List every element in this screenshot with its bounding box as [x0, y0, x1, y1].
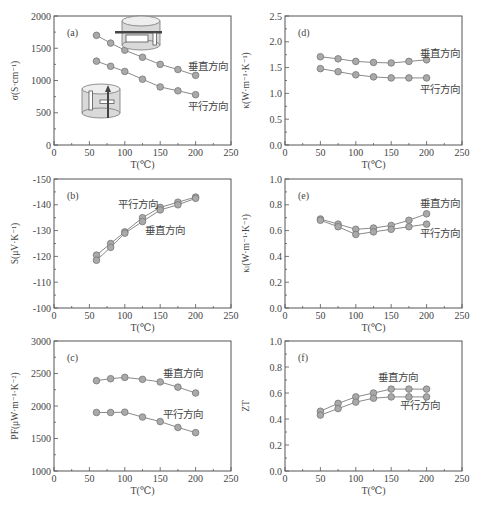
data-point: [107, 244, 114, 251]
data-point: [370, 229, 377, 236]
y-tick-label: 500: [36, 107, 51, 118]
data-point: [93, 377, 100, 384]
x-tick-label: 50: [315, 147, 325, 158]
panel-label: (f): [298, 352, 308, 364]
x-tick-label: 150: [153, 147, 168, 158]
panel-f-zt-chart: 050100150200250T(℃)0.00.20.40.60.81.0ZT(…: [241, 336, 470, 498]
data-point: [423, 386, 430, 393]
y-tick-label: 0.0: [270, 140, 283, 151]
x-tick-label: 250: [224, 147, 239, 158]
data-point: [157, 61, 164, 68]
x-axis-label: T(℃): [362, 485, 386, 497]
panel-d-thermal-conductivity-chart: 050100150200250T(℃)0.00.51.01.52.02.5κ(W…: [241, 11, 470, 172]
y-tick-label: 2.0: [270, 36, 283, 47]
data-point: [317, 65, 324, 72]
series-annotation: 垂直方向: [188, 60, 228, 72]
y-tick-label: 0.2: [270, 277, 283, 288]
data-point: [192, 72, 199, 79]
data-point: [335, 405, 342, 412]
x-axis-label: T(℃): [131, 485, 155, 497]
y-axis: 0.00.20.40.60.81.0ZT: [241, 336, 289, 477]
data-point: [192, 390, 199, 397]
y-tick-label: -120: [33, 251, 51, 262]
series-annotation: 平行方向: [400, 399, 440, 411]
x-tick-label: 50: [84, 147, 94, 158]
data-point: [157, 379, 164, 386]
x-tick-label: 100: [348, 147, 363, 158]
x-tick-label: 150: [384, 473, 399, 484]
panel-c-power-factor-chart: 050100150200250T(℃)10001500200025003000P…: [10, 336, 239, 498]
data-point: [406, 223, 413, 230]
data-point: [388, 75, 395, 82]
data-point: [388, 386, 395, 393]
x-tick-label: 150: [153, 473, 168, 484]
data-point: [353, 231, 360, 238]
data-point: [370, 395, 377, 402]
data-point: [423, 211, 430, 218]
x-axis-label: T(℃): [362, 159, 386, 171]
x-tick-label: 100: [117, 473, 132, 484]
panel-label: (c): [67, 352, 78, 364]
panel-label: (b): [67, 190, 79, 202]
y-tick-label: -140: [33, 199, 51, 210]
series-annotation: 平行方向: [188, 100, 228, 112]
y-tick-label: 1.0: [270, 336, 283, 347]
y-axis-label: κ(W·m⁻¹·K⁻¹): [241, 52, 252, 108]
data-point: [388, 226, 395, 233]
x-axis-label: T(℃): [131, 322, 155, 334]
series-annotation: 垂直方向: [420, 47, 460, 59]
x-tick-label: 0: [283, 147, 288, 158]
y-axis: -100-110-120-130-140-150S(μV·K⁻¹): [10, 174, 58, 314]
y-tick-label: 2000: [31, 11, 51, 22]
data-point: [370, 59, 377, 66]
y-axis-label: S(μV·K⁻¹): [10, 223, 21, 264]
x-tick-label: 100: [117, 147, 132, 158]
y-tick-label: 2.5: [270, 11, 283, 22]
series-annotation: 垂直方向: [378, 371, 418, 383]
y-tick-label: 2500: [31, 368, 51, 379]
y-tick-label: 3000: [31, 336, 51, 347]
y-tick-label: -130: [33, 225, 51, 236]
y-axis: 0500100015002000σ(S·cm⁻¹): [10, 11, 58, 151]
y-axis-label: ZT: [241, 400, 251, 412]
plot-frame: [54, 341, 231, 471]
data-point: [175, 202, 182, 209]
x-tick-label: 250: [224, 310, 239, 321]
x-tick-label: 0: [283, 473, 288, 484]
cylinder-parallel-icon: [82, 84, 120, 118]
y-tick-label: -110: [33, 277, 51, 288]
x-tick-label: 200: [188, 310, 203, 321]
y-tick-label: -100: [33, 303, 51, 314]
data-point: [122, 230, 129, 237]
data-point: [192, 195, 199, 202]
data-point: [406, 386, 413, 393]
x-axis-label: T(℃): [362, 322, 386, 334]
x-tick-label: 100: [117, 310, 132, 321]
data-point: [317, 53, 324, 60]
series-annotation: 垂直方向: [163, 367, 203, 379]
data-point: [122, 409, 129, 416]
y-tick-label: 1.0: [270, 88, 283, 99]
data-point: [388, 60, 395, 67]
y-tick-label: 0.4: [270, 414, 283, 425]
series-annotation: 平行方向: [163, 408, 203, 420]
data-point: [93, 58, 100, 65]
panel-label: (e): [298, 190, 309, 202]
y-tick-label: 0.8: [270, 199, 283, 210]
x-tick-label: 100: [348, 473, 363, 484]
x-tick-label: 200: [419, 310, 434, 321]
series-annotation: 垂直方向: [145, 224, 185, 236]
data-point: [175, 66, 182, 73]
y-tick-label: 1000: [31, 466, 51, 477]
x-tick-label: 250: [224, 473, 239, 484]
figure: 050100150200250T(℃)0500100015002000σ(S·c…: [0, 0, 480, 513]
y-tick-label: 0.0: [270, 303, 283, 314]
y-tick-label: 0.2: [270, 440, 283, 451]
data-point: [175, 424, 182, 431]
sample-orientation-insets: [82, 16, 162, 118]
y-axis: 10001500200025003000PF(μW·m⁻¹·K⁻²): [10, 336, 58, 477]
data-point: [423, 75, 430, 82]
data-point: [192, 429, 199, 436]
data-point: [93, 409, 100, 416]
data-point: [107, 63, 114, 70]
